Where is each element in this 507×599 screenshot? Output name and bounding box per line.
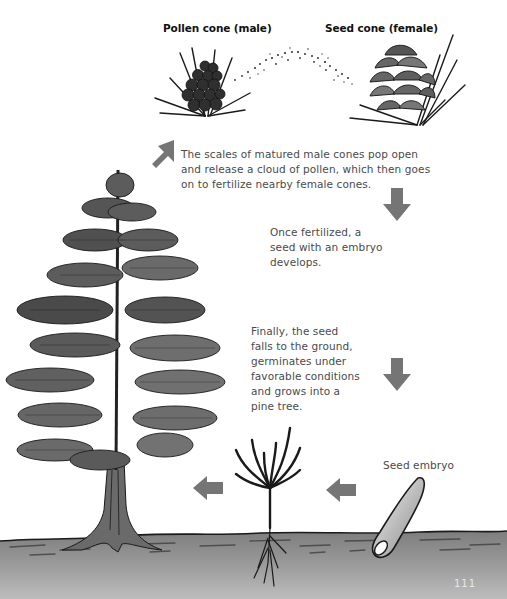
pollination-caption: The scales of matured male cones pop ope… (181, 147, 430, 192)
fertilization-caption: Once fertilized, a seed with an embryo d… (270, 225, 383, 270)
arrow-down-icon (382, 358, 412, 392)
arrow-down-icon (382, 188, 412, 222)
arrow-left-icon (326, 477, 358, 503)
pollen-cloud (230, 40, 360, 90)
seed-cone-icon (345, 30, 475, 130)
pine-tree-icon (0, 150, 240, 570)
pollen-cone-label: Pollen cone (male) (163, 22, 272, 34)
germination-caption: Finally, the seed falls to the ground, g… (251, 324, 360, 414)
seed-icon (360, 470, 440, 565)
page-number: 111 (454, 578, 476, 589)
arrow-left-icon (193, 475, 225, 501)
seedling-icon (228, 418, 318, 588)
